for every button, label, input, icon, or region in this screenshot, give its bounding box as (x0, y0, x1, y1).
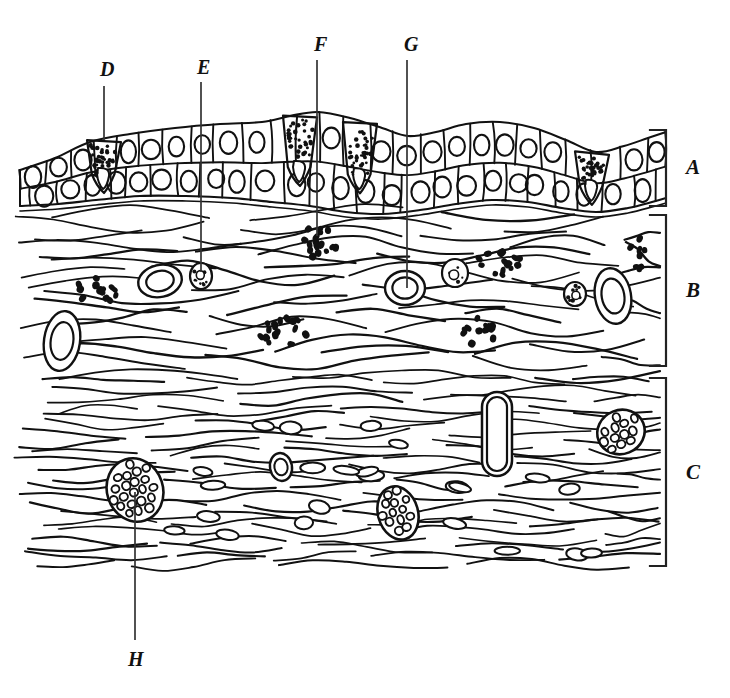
mucin-granule (288, 132, 292, 136)
axon-profile (402, 495, 410, 503)
mucin-granule (294, 137, 297, 140)
mucin-granule (355, 156, 359, 160)
vessel-lumen (392, 277, 417, 298)
epithelial-cell-wall (470, 124, 471, 165)
mucin-granule (289, 137, 292, 140)
mucin-granule (303, 151, 307, 155)
mucin-granule (355, 143, 360, 148)
cell-granule (192, 270, 196, 274)
mucin-granule (308, 153, 311, 156)
mucin-granule (592, 156, 596, 160)
mucin-granule (101, 156, 105, 160)
mucin-granule (582, 176, 586, 180)
mucin-granule (366, 171, 369, 174)
vessel-lumen (487, 397, 507, 471)
mucin-granule (298, 145, 303, 150)
mucin-granule (304, 119, 307, 122)
fibrocyte-nucleus (581, 548, 602, 558)
mucin-granule (306, 146, 309, 149)
mucin-granule (95, 170, 98, 173)
mucin-granule (348, 151, 352, 155)
mucin-granule (589, 161, 594, 166)
mucin-granule (354, 137, 359, 142)
background (0, 0, 730, 698)
histology-illustration (0, 0, 730, 698)
cell-granule (456, 280, 460, 284)
cell-granule (568, 299, 571, 302)
mucin-granule (310, 127, 315, 132)
cell-nucleus (449, 270, 458, 280)
mucin-granule (288, 140, 291, 143)
callout-label-G: G (404, 34, 418, 55)
cell-granule (566, 295, 570, 299)
callout-label-D: D (100, 59, 114, 80)
mucin-granule (293, 130, 298, 135)
epithelial-cell-wall (191, 127, 192, 163)
mucin-granule (585, 165, 589, 169)
mucin-granule (585, 172, 589, 176)
mucin-granule (296, 149, 301, 154)
mucin-granule (106, 145, 109, 148)
mucin-granule (105, 150, 109, 154)
mucin-granule (94, 157, 99, 162)
mucin-granule (584, 182, 587, 185)
cell-granule (194, 279, 197, 282)
fibrocyte-nucleus (164, 526, 185, 536)
mucin-granule (598, 170, 602, 174)
epithelial-cell-wall (222, 162, 223, 197)
mucin-granule (307, 135, 311, 139)
mucin-granule (100, 160, 104, 164)
mucin-granule (371, 137, 374, 140)
fibrocyte-nucleus (294, 516, 313, 530)
mast-cell-granule (92, 281, 100, 289)
mucin-granule (580, 159, 584, 163)
epithelial-cell-wall (284, 162, 285, 203)
epithelial-cell-wall (213, 125, 214, 163)
mucin-granule (365, 161, 368, 164)
axon-profile (385, 517, 395, 527)
stippled-cell (564, 282, 586, 306)
mucin-granule (92, 163, 96, 167)
epithelial-cell-wall (319, 112, 320, 162)
blood-vessel (482, 392, 512, 476)
callout-label-E: E (197, 57, 210, 78)
mucin-granule (100, 164, 104, 168)
callout-label-F: F (314, 34, 327, 55)
fibrocyte-nucleus (201, 480, 226, 490)
epithelial-cell-wall (138, 133, 139, 166)
mucin-granule (349, 145, 352, 148)
axon-profile (125, 509, 133, 518)
mucin-granule (110, 159, 114, 163)
mucin-granule (352, 162, 355, 165)
epithelial-cell-wall (565, 139, 566, 175)
mucin-granule (362, 153, 366, 157)
cell-granule (202, 282, 205, 285)
mast-cell-granule (636, 265, 642, 272)
blood-vessel (385, 271, 425, 305)
mucin-granule (583, 169, 586, 172)
fibrocyte-nucleus (300, 462, 325, 473)
mucin-granule (106, 163, 110, 167)
cell-nucleus (572, 291, 580, 299)
cell-granule (456, 266, 459, 269)
mucin-granule (348, 155, 352, 159)
fibrocyte-nucleus (279, 421, 301, 435)
mucin-granule (100, 148, 104, 152)
layer-label-B: B (686, 280, 700, 301)
mucin-granule (590, 171, 594, 175)
mucin-granule (287, 128, 291, 132)
layer-label-A: A (686, 157, 700, 178)
mucin-granule (91, 153, 94, 156)
fibrocyte-nucleus (495, 547, 520, 555)
mucin-granule (297, 138, 300, 141)
cell-granule (205, 281, 208, 284)
mucin-granule (596, 166, 600, 170)
stippled-cell (442, 259, 468, 287)
mucin-granule (308, 140, 312, 144)
epithelial-cell-wall (150, 165, 151, 196)
mucin-granule (578, 155, 581, 158)
mucin-granule (364, 146, 368, 150)
cell-granule (461, 277, 463, 279)
mucin-granule (364, 143, 367, 146)
mucin-granule (359, 163, 363, 167)
